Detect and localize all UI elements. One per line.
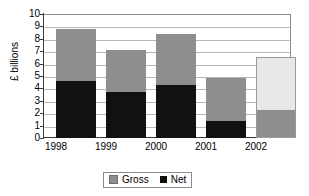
legend-label-gross: Gross <box>122 174 149 185</box>
bar-segment-net-2001[interactable] <box>206 121 246 138</box>
legend-swatch-net-icon <box>160 176 167 183</box>
y-tick-label-10: 10 <box>18 9 40 19</box>
y-tick-label-7: 7 <box>18 46 40 56</box>
chart-container: £ billions 10 9 8 7 6 5 4 3 2 1 0 <box>0 0 309 196</box>
y-tick-label-9: 9 <box>18 21 40 31</box>
y-tick-label-5: 5 <box>18 71 40 81</box>
y-tick-mark-0 <box>40 138 44 139</box>
legend-item-gross[interactable]: Gross <box>109 174 149 185</box>
y-tick-label-4: 4 <box>18 83 40 93</box>
bar-segment-net-1999[interactable] <box>106 92 146 138</box>
legend-item-net[interactable]: Net <box>160 174 187 185</box>
bar-segment-net-2000[interactable] <box>156 85 196 138</box>
bar-segment-gross-2001[interactable] <box>206 78 246 120</box>
bar-segment-net-1998[interactable] <box>56 81 96 138</box>
y-tick-label-6: 6 <box>18 59 40 69</box>
legend-label-net: Net <box>171 174 187 185</box>
y-tick-label-8: 8 <box>18 34 40 44</box>
y-tick-label-2: 2 <box>18 108 40 118</box>
bar-segment-net-2002[interactable] <box>256 110 296 138</box>
x-tick-label-2002: 2002 <box>226 141 286 153</box>
y-tick-label-1: 1 <box>18 121 40 131</box>
chart-legend: Gross Net <box>103 172 192 188</box>
bar-segment-gross-2000[interactable] <box>156 34 196 85</box>
legend-swatch-gross-icon <box>109 175 118 184</box>
y-tick-label-3: 3 <box>18 96 40 106</box>
bar-segment-gross-1998[interactable] <box>56 29 96 81</box>
bars-layer <box>44 14 290 138</box>
bar-segment-gross-1999[interactable] <box>106 50 146 92</box>
bar-segment-gross-2002[interactable] <box>256 57 296 110</box>
